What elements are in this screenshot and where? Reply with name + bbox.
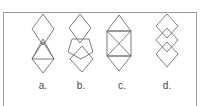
triangle-shape [107,56,131,71]
figures-canvas [0,0,202,106]
figure-d [156,14,178,67]
diamond-shape [156,28,178,52]
option-label-b: b. [77,80,85,91]
diamond-shape [156,14,178,38]
figure-a [32,14,54,73]
diamond-shape [32,14,54,45]
diamond-shape [32,42,54,73]
diamond-shape [156,42,178,67]
option-label-d: d. [163,80,171,91]
figure-c [107,15,131,71]
triangle-shape [107,15,131,31]
option-label-c: c. [118,80,126,91]
option-label-a: a. [39,80,47,91]
figure-b [68,14,93,72]
